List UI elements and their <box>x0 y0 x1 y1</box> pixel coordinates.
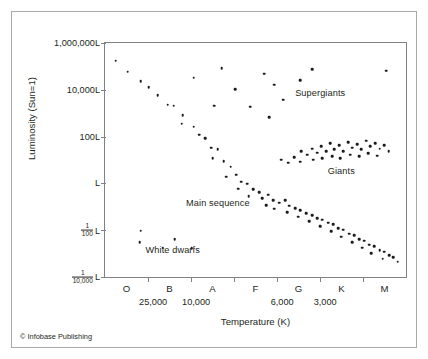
x-class-label-G: G <box>295 283 302 294</box>
star-point <box>230 165 233 168</box>
star-point <box>320 145 323 148</box>
star-point <box>385 69 388 72</box>
star-point <box>387 150 390 153</box>
star-point <box>381 257 384 260</box>
star-point <box>248 195 251 198</box>
star-point <box>383 144 386 147</box>
star-point <box>378 249 381 252</box>
x-class-label-A: A <box>209 283 215 294</box>
star-point <box>373 245 376 248</box>
star-point <box>138 241 141 244</box>
group-label-giants: Giants <box>328 166 355 176</box>
x-axis-title: Temperature (K) <box>104 316 407 327</box>
star-point <box>348 232 351 235</box>
x-temperature-label-3000: 3,000 <box>314 297 337 307</box>
star-point <box>220 67 223 70</box>
star-point <box>234 88 237 91</box>
star-point <box>240 180 243 183</box>
star-point <box>327 221 330 224</box>
star-point <box>370 252 373 255</box>
star-point <box>356 143 359 146</box>
star-point <box>147 86 150 89</box>
star-point <box>114 59 117 62</box>
star-point <box>340 235 343 238</box>
x-temperature-label-25000: 25,000 <box>139 297 167 307</box>
star-point <box>267 193 270 196</box>
star-point <box>265 204 268 207</box>
star-point <box>392 256 395 259</box>
star-point <box>198 133 201 136</box>
y-tick-mark <box>101 43 106 44</box>
star-point <box>249 105 252 108</box>
star-point <box>353 234 356 237</box>
y-tick-mark <box>101 230 106 231</box>
star-point <box>273 83 276 86</box>
star-point <box>338 144 341 147</box>
star-point <box>192 125 195 128</box>
x-temperature-label-10000: 10,000 <box>182 297 210 307</box>
star-point <box>316 151 319 154</box>
x-tick-mark <box>363 277 364 282</box>
star-point <box>299 79 302 82</box>
star-point <box>330 230 333 233</box>
y-tick-mark <box>101 277 106 278</box>
star-point <box>139 229 142 232</box>
star-point <box>316 217 319 220</box>
star-point <box>282 98 285 101</box>
star-point <box>261 197 264 200</box>
star-point <box>332 223 335 226</box>
x-class-label-B: B <box>166 283 172 294</box>
star-point <box>280 158 283 161</box>
star-point <box>174 238 177 241</box>
star-point <box>156 94 159 97</box>
y-tick-label: 1100L <box>81 223 100 238</box>
star-point <box>278 201 281 204</box>
star-point <box>325 150 328 153</box>
star-point <box>294 207 297 210</box>
star-point <box>311 147 314 150</box>
star-point <box>284 199 287 202</box>
star-point <box>237 187 240 190</box>
y-axis-title: Luminosity (Sun=1) <box>26 77 37 160</box>
star-point <box>299 209 302 212</box>
star-point <box>358 238 361 241</box>
y-tick-mark <box>101 183 106 184</box>
x-tick-mark <box>191 277 192 282</box>
star-point <box>210 147 213 150</box>
star-point <box>365 140 368 143</box>
star-point <box>181 114 184 117</box>
star-point <box>126 70 129 73</box>
figure-frame: Luminosity (Sun=1) SupergiantsGiantsMain… <box>11 11 417 348</box>
star-point <box>287 162 290 165</box>
star-point <box>369 145 372 148</box>
star-point <box>273 207 276 210</box>
star-point <box>166 103 169 106</box>
x-class-label-O: O <box>123 283 130 294</box>
star-point <box>217 148 220 151</box>
star-point <box>252 188 255 191</box>
star-point <box>360 148 363 151</box>
star-point <box>361 246 364 249</box>
star-point <box>223 160 226 163</box>
star-point <box>311 214 314 217</box>
y-tick-mark <box>101 90 106 91</box>
y-tick-label: 1,000,000L <box>54 38 100 48</box>
y-tick-label: 100L <box>80 132 100 142</box>
star-point <box>306 154 309 157</box>
x-temperature-label-6000: 6,000 <box>271 297 294 307</box>
y-tick-label: L <box>95 178 100 188</box>
star-point <box>268 116 271 119</box>
star-point <box>331 155 334 158</box>
star-point <box>363 239 366 242</box>
star-point <box>337 227 340 230</box>
star-point <box>297 215 300 218</box>
scatter-points-layer <box>105 43 406 277</box>
star-point <box>329 142 332 145</box>
x-class-label-M: M <box>380 283 388 294</box>
star-point <box>308 220 311 223</box>
star-point <box>286 211 289 214</box>
x-tick-mark <box>234 277 235 282</box>
y-tick-mark <box>101 137 106 138</box>
star-point <box>349 154 352 157</box>
star-point <box>246 183 249 186</box>
